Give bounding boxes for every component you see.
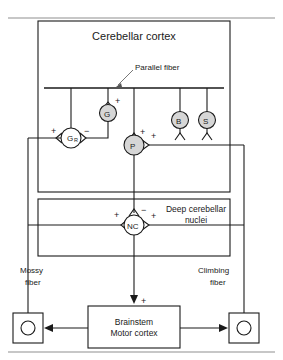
circuit-svg: G R G P B S NC + − + + + − + + + Cerebel… — [0, 0, 283, 360]
sign-purkinje-input: + — [140, 127, 145, 137]
brainstem-to-mossy-arrowhead-icon — [44, 324, 53, 332]
mossy-fiber-label-line2: fiber — [25, 278, 41, 287]
sign-nc-input-left: + — [114, 210, 119, 220]
sign-nc-output-right: + — [151, 211, 156, 221]
brainstem-label-line1: Brainstem — [115, 317, 153, 327]
nc-to-brainstem-arrowhead-icon — [130, 295, 138, 304]
cerebellar-circuit-diagram: G R G P B S NC + − + + + − + + + Cerebel… — [0, 0, 283, 360]
deep-cerebellar-nuclei-label-line1: Deep cerebellar — [166, 204, 226, 214]
sign-purkinje-output: + — [151, 131, 156, 141]
mossy-fiber-source-soma-icon — [21, 321, 35, 335]
parallel-fiber-leader-line — [118, 70, 133, 85]
climbing-fiber-source-soma-icon — [237, 321, 251, 335]
golgi-cell-label: G — [104, 110, 110, 119]
mossy-fiber-label-line1: Mossy — [20, 266, 43, 275]
basket-cell-label: B — [176, 117, 181, 126]
sign-granule-output: − — [84, 126, 89, 136]
climbing-fiber-label-line1: Climbing — [198, 266, 229, 275]
sign-golgi-input: + — [115, 96, 120, 106]
stellate-cell-label: S — [203, 117, 208, 126]
brainstem-motor-cortex-box — [88, 306, 180, 348]
purkinje-cell-label: P — [130, 142, 135, 151]
stellate-terminal-icon — [202, 133, 212, 140]
parallel-fiber-label: Parallel fiber — [135, 63, 180, 72]
deep-cerebellar-nuclei-label-line2: nuclei — [185, 215, 207, 225]
granule-cell-label-subscript: R — [74, 137, 78, 143]
climbing-fiber-label-line2: fiber — [210, 278, 226, 287]
sign-brainstem-input: + — [141, 296, 146, 306]
granule-cell-label: G — [67, 134, 73, 143]
cerebellar-cortex-title: Cerebellar cortex — [92, 30, 176, 42]
granule-to-golgi-wire — [86, 121, 108, 138]
nuclear-cell-label: NC — [127, 222, 139, 231]
brainstem-to-climbing-arrowhead-icon — [219, 324, 228, 332]
motor-cortex-label-line2: Motor cortex — [110, 328, 158, 338]
sign-granule-input: + — [51, 126, 56, 136]
basket-terminal-icon — [175, 133, 185, 140]
sign-nc-input-top: − — [141, 205, 146, 215]
